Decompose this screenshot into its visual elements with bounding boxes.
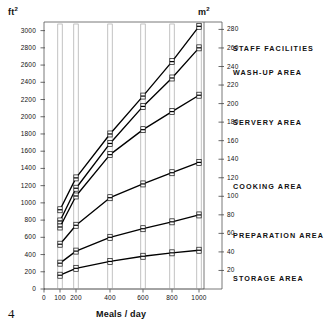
chart-canvas — [0, 0, 327, 332]
chart-figure: ft2 m2 Meals / day 4 3000280026002400220… — [0, 0, 327, 332]
